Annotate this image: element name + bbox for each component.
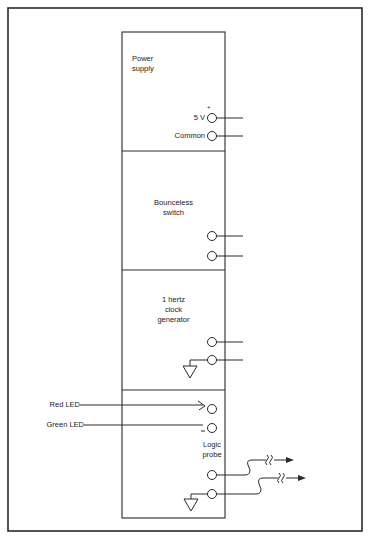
label-common: Common <box>150 131 205 141</box>
title-line: probe <box>190 450 234 460</box>
terminal-common[interactable] <box>208 132 217 141</box>
terminal-clock-out[interactable] <box>208 338 217 347</box>
label-green-led: Green LED <box>20 420 84 430</box>
terminal-probe-in[interactable] <box>208 471 217 480</box>
label-5v: 5 V <box>160 113 205 123</box>
terminal-5v[interactable] <box>208 114 217 123</box>
polarity-plus: + <box>207 102 211 112</box>
terminal-probe-gnd[interactable] <box>208 490 217 499</box>
title-line: clock <box>122 305 225 315</box>
probe-tip-arrow <box>286 457 294 463</box>
module-title-logic-probe: Logic probe <box>190 440 234 460</box>
probe-tip-arrow <box>298 475 306 481</box>
title-line: Bounceless <box>122 198 225 208</box>
title-line: Logic <box>190 440 234 450</box>
module-title-clock-generator: 1 hertz clock generator <box>122 295 225 325</box>
ground-icon <box>183 366 197 378</box>
title-line: generator <box>122 315 225 325</box>
title-line: supply <box>132 64 154 74</box>
trainer-block-diagram <box>0 0 369 547</box>
title-line: 1 hertz <box>122 295 225 305</box>
label-red-led: Red LED <box>20 400 80 410</box>
red-led <box>208 405 217 414</box>
title-line: Power <box>132 54 154 64</box>
terminal-switch-2[interactable] <box>208 252 217 261</box>
title-line: switch <box>122 208 225 218</box>
terminal-clock-gnd[interactable] <box>208 356 217 365</box>
ground-icon <box>184 499 198 511</box>
module-title-power-supply: Power supply <box>132 54 154 74</box>
module-title-bounceless-switch: Bounceless switch <box>122 198 225 218</box>
terminal-switch-1[interactable] <box>208 232 217 241</box>
green-led <box>208 424 217 433</box>
